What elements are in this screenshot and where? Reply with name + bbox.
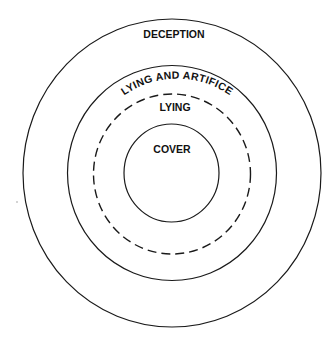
scan-speck bbox=[16, 201, 17, 202]
lying-dashed-circle bbox=[94, 94, 251, 254]
concentric-deception-diagram: DECEPTION LYING AND ARTIFICE LYING COVER bbox=[0, 0, 335, 346]
lying-label: LYING bbox=[159, 101, 190, 113]
lying-and-artifice-arc-text: LYING AND ARTIFICE bbox=[118, 69, 235, 98]
cover-label: COVER bbox=[153, 143, 191, 155]
deception-label: DECEPTION bbox=[143, 28, 204, 40]
cover-circle bbox=[124, 124, 219, 222]
lying-and-artifice-circle bbox=[68, 66, 277, 281]
lying-and-artifice-label: LYING AND ARTIFICE bbox=[118, 69, 235, 98]
